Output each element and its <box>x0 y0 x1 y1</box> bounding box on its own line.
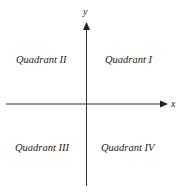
quadrant-ii-label: Quadrant II <box>16 55 66 66</box>
coordinate-plane-diagram: y x Quadrant I Quadrant II Quadrant III … <box>0 0 178 192</box>
quadrant-iii-label: Quadrant III <box>15 143 69 154</box>
y-axis-label: y <box>83 7 87 17</box>
axes-graphic <box>0 0 178 192</box>
quadrant-iv-label: Quadrant IV <box>101 143 154 154</box>
x-axis-label: x <box>171 99 175 109</box>
x-axis-arrow-icon <box>160 101 168 108</box>
quadrant-i-label: Quadrant I <box>105 55 152 66</box>
y-axis-arrow-icon <box>83 22 90 30</box>
